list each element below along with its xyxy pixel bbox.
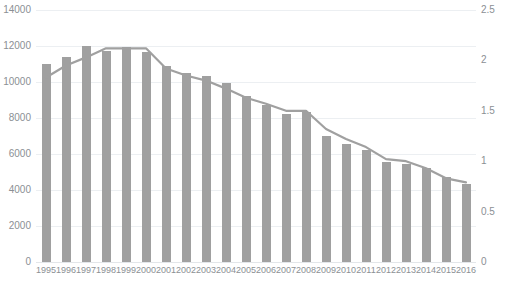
x-axis-tick-label: 2015 <box>436 265 456 276</box>
bar <box>362 150 371 262</box>
y-axis-right-tick-label: 0.5 <box>481 207 507 217</box>
y-axis-left-tick-label: 14000 <box>0 5 31 15</box>
bar <box>102 51 111 262</box>
x-axis-tick-label: 2007 <box>276 265 296 276</box>
bar <box>202 76 211 262</box>
bar <box>242 96 251 263</box>
x-axis-tick-label: 2013 <box>396 265 416 276</box>
bar <box>422 168 431 262</box>
x-axis-tick-label: 1996 <box>56 265 76 276</box>
bar <box>382 162 391 262</box>
x-axis-tick-label: 2004 <box>216 265 236 276</box>
bar <box>82 46 91 262</box>
x-axis-tick-label: 2009 <box>316 265 336 276</box>
y-axis-right: 00.511.522.5 <box>481 10 507 262</box>
y-axis-left-tick-label: 4000 <box>0 185 31 195</box>
bar <box>142 52 151 262</box>
bar <box>282 114 291 263</box>
x-axis-tick-label: 2002 <box>176 265 196 276</box>
y-axis-right-tick-label: 1.5 <box>481 106 507 116</box>
plot-area <box>36 10 476 262</box>
x-axis-tick-label: 2016 <box>456 265 476 276</box>
x-axis-tick-label: 2008 <box>296 265 316 276</box>
y-axis-left-tick-label: 2000 <box>0 221 31 231</box>
bar <box>42 64 51 262</box>
bar-series <box>36 10 476 262</box>
x-axis-tick-label: 1998 <box>96 265 116 276</box>
x-axis-tick-label: 2010 <box>336 265 356 276</box>
y-axis-right-tick-label: 0 <box>481 257 507 267</box>
y-axis-left-tick-label: 12000 <box>0 41 31 51</box>
chart-container: 02000400060008000100001200014000 00.511.… <box>0 0 507 285</box>
bar <box>222 83 231 262</box>
bar <box>402 164 411 262</box>
x-axis-tick-label: 2003 <box>196 265 216 276</box>
bar <box>262 105 271 262</box>
x-axis-tick-label: 2006 <box>256 265 276 276</box>
gridline <box>36 262 476 263</box>
bar <box>162 66 171 262</box>
x-axis: 1995199619971998199920002001200220032004… <box>36 265 476 283</box>
y-axis-left-tick-label: 8000 <box>0 113 31 123</box>
bar <box>122 47 131 262</box>
bar <box>302 112 311 262</box>
y-axis-left-tick-label: 10000 <box>0 77 31 87</box>
y-axis-right-tick-label: 2 <box>481 55 507 65</box>
x-axis-tick-label: 2014 <box>416 265 436 276</box>
x-axis-tick-label: 2012 <box>376 265 396 276</box>
bar <box>462 184 471 262</box>
x-axis-tick-label: 2011 <box>356 265 376 276</box>
bar <box>62 57 71 262</box>
x-axis-tick-label: 2005 <box>236 265 256 276</box>
x-axis-tick-label: 2000 <box>136 265 156 276</box>
x-axis-tick-label: 1995 <box>36 265 56 276</box>
y-axis-left: 02000400060008000100001200014000 <box>0 10 31 262</box>
x-axis-tick-label: 2001 <box>156 265 176 276</box>
y-axis-right-tick-label: 2.5 <box>481 5 507 15</box>
bar <box>342 144 351 262</box>
x-axis-tick-label: 1999 <box>116 265 136 276</box>
bar <box>442 177 451 262</box>
bar <box>322 136 331 262</box>
y-axis-left-tick-label: 6000 <box>0 149 31 159</box>
y-axis-right-tick-label: 1 <box>481 156 507 166</box>
x-axis-tick-label: 1997 <box>76 265 96 276</box>
y-axis-left-tick-label: 0 <box>0 257 31 267</box>
bar <box>182 73 191 262</box>
